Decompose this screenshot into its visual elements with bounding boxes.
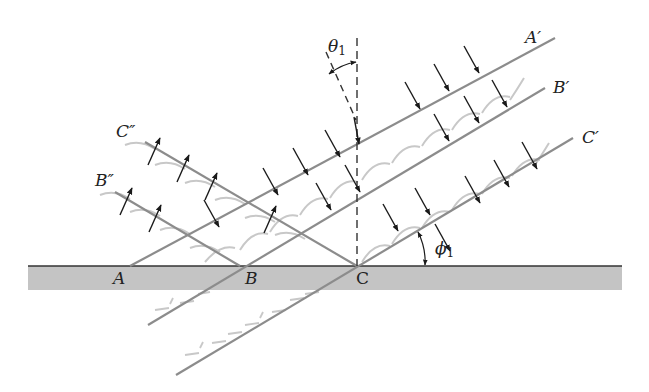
phi-1-label: ϕ1: [435, 240, 454, 259]
phi-symbol: ϕ: [435, 238, 447, 258]
reflected-wavefronts: [115, 142, 357, 266]
wavefront-C-Cprime: [176, 138, 573, 375]
point-B-label: B: [245, 270, 258, 287]
theta-symbol: θ: [328, 36, 338, 56]
wavefront-Bdoubleprime-B: [115, 192, 240, 266]
point-Cdoubleprime-label: C″: [116, 123, 135, 140]
incident-wavelets: [205, 78, 549, 262]
phi-angle-arc: [418, 232, 425, 265]
incident-wavefronts: [130, 38, 573, 375]
point-A-label: A: [113, 270, 125, 287]
point-Cprime-label: C′: [582, 129, 599, 146]
reflected-propagation-arrows: [120, 138, 276, 233]
theta-subscript: 1: [338, 44, 346, 58]
transmitted-wavelets: [155, 292, 319, 355]
wavefront-A-Aprime: [130, 38, 555, 266]
point-Bprime-label: B′: [553, 79, 569, 96]
point-Aprime-label: A′: [525, 29, 541, 46]
point-C-label: C: [356, 270, 369, 287]
incident-direction-dashed: [326, 52, 356, 120]
phi-subscript: 1: [447, 246, 455, 260]
point-Bdoubleprime-label: B″: [95, 172, 114, 189]
reflected-wavelets: [100, 143, 305, 252]
wave-reflection-diagram: [0, 0, 649, 392]
theta-1-label: θ1: [328, 38, 346, 57]
incident-propagation-arrows: [204, 46, 537, 251]
